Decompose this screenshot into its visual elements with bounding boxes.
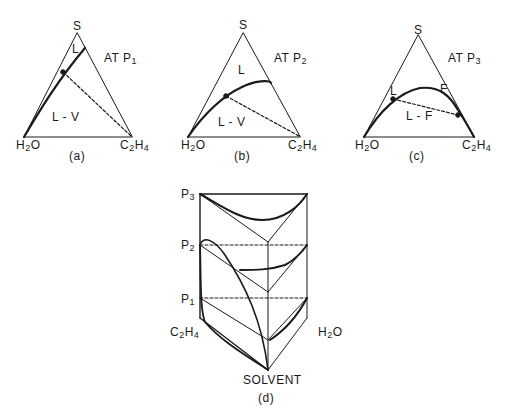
- t: H: [318, 325, 327, 339]
- pressure-sub: 3: [476, 56, 482, 66]
- pressure-sub: 2: [302, 56, 308, 66]
- vertex-c2h4-b: C2H4: [288, 139, 317, 153]
- pressure-label-b: AT P2: [274, 52, 307, 66]
- t: 4: [486, 143, 492, 153]
- prism-label-solvent: SOLVENT: [243, 374, 302, 386]
- t: 4: [312, 143, 318, 153]
- region-l-a: L: [72, 43, 79, 55]
- region-l-c: L: [390, 85, 397, 97]
- t: C: [120, 138, 129, 152]
- region-f-c: F: [440, 83, 448, 95]
- pressure-sub: 1: [132, 56, 138, 66]
- t: H: [185, 325, 194, 339]
- vertex-h2o-c: H2O: [355, 139, 380, 153]
- t: H: [355, 138, 364, 152]
- t: C: [288, 138, 297, 152]
- pressure-level-p3: P3: [181, 188, 195, 202]
- t: O: [31, 138, 41, 152]
- t: H: [16, 138, 25, 152]
- t: C: [462, 138, 471, 152]
- t: O: [333, 325, 343, 339]
- vertex-s-c: S: [414, 24, 423, 36]
- pressure-level-p2: P2: [181, 239, 195, 253]
- t: H: [477, 138, 486, 152]
- region-lv-b: L - V: [218, 116, 245, 128]
- region-lf-c: L - F: [406, 110, 433, 122]
- t: O: [370, 138, 380, 152]
- caption-b: (b): [234, 150, 250, 162]
- vertex-h2o-a: H2O: [16, 139, 41, 153]
- vertex-s-a: S: [73, 20, 82, 32]
- pressure-text: AT P: [274, 51, 302, 65]
- t: H: [181, 138, 190, 152]
- t: 4: [194, 330, 200, 340]
- t: 1: [190, 297, 196, 307]
- t: O: [196, 138, 206, 152]
- pressure-label-c: AT P3: [448, 52, 481, 66]
- caption-d: (d): [258, 392, 274, 404]
- phase-diagram-figure: [0, 0, 509, 413]
- pressure-text: AT P: [104, 51, 132, 65]
- t: 2: [190, 243, 196, 253]
- t: P: [181, 238, 190, 252]
- caption-a: (a): [69, 150, 85, 162]
- prism-label-c2h4: C2H4: [170, 326, 199, 340]
- vertex-c2h4-c: C2H4: [462, 139, 491, 153]
- t: 4: [144, 143, 150, 153]
- t: P: [181, 292, 190, 306]
- t: P: [181, 187, 190, 201]
- region-lv-a: L - V: [52, 111, 79, 123]
- t: C: [170, 325, 179, 339]
- vertex-s-b: S: [239, 19, 248, 31]
- prism-d: [200, 194, 307, 370]
- vertex-h2o-b: H2O: [181, 139, 206, 153]
- vertex-c2h4-a: C2H4: [120, 139, 149, 153]
- t: H: [135, 138, 144, 152]
- t: 3: [190, 192, 196, 202]
- pressure-text: AT P: [448, 51, 476, 65]
- t: H: [303, 138, 312, 152]
- pressure-level-p1: P1: [181, 293, 195, 307]
- prism-label-h2o: H2O: [318, 326, 343, 340]
- caption-c: (c): [409, 150, 425, 162]
- region-l-b: L: [238, 64, 245, 76]
- pressure-label-a: AT P1: [104, 52, 137, 66]
